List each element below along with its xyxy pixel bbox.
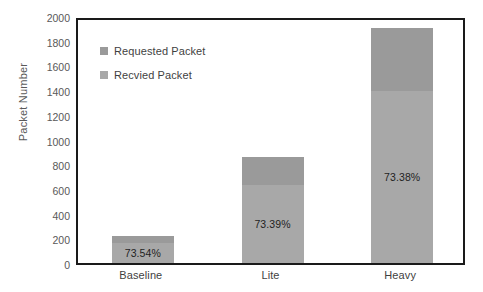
legend-label: Requested Packet [114, 45, 206, 57]
bar-segment-received: 73.39% [242, 185, 304, 263]
bar-segment-received: 73.54% [112, 243, 174, 263]
x-axis-label-baseline: Baseline [119, 269, 162, 281]
y-axis-tick-1000: 1000 [24, 136, 70, 148]
bar-group-lite: 73.39% [242, 157, 304, 263]
y-axis-tick-1200: 1200 [24, 111, 70, 123]
legend-swatch-icon [100, 71, 108, 79]
y-axis-tick-1800: 1800 [24, 37, 70, 49]
bar-group-heavy: 73.38% [371, 28, 433, 263]
x-axis-label-lite: Lite [261, 269, 279, 281]
y-axis-tick-1400: 1400 [24, 86, 70, 98]
y-axis-tick-1600: 1600 [24, 61, 70, 73]
legend-label: Recvied Packet [114, 69, 192, 81]
bar-value-label: 73.39% [254, 218, 290, 230]
plot-inner: Requested PacketRecvied Packet 73.54%73.… [78, 20, 463, 263]
y-axis-tick-600: 600 [24, 185, 70, 197]
y-axis-tick-200: 200 [24, 234, 70, 246]
legend: Requested PacketRecvied Packet [100, 44, 206, 92]
bar-segment-requested [242, 157, 304, 185]
legend-item-1: Requested Packet [100, 44, 206, 57]
bar-segment-requested [371, 28, 433, 90]
bar-value-label: 73.38% [384, 171, 420, 183]
bar-segment-requested [112, 236, 174, 243]
bar-group-baseline: 73.54% [112, 236, 174, 263]
plot-area: Requested PacketRecvied Packet 73.54%73.… [76, 18, 465, 265]
y-axis-tick-0: 0 [24, 259, 70, 271]
bar-value-label: 73.54% [125, 247, 161, 259]
bar-segment-received: 73.38% [371, 91, 433, 263]
packet-number-bar-chart: Packet Number 02004006008001000120014001… [0, 0, 483, 292]
legend-swatch-icon [100, 47, 108, 55]
x-axis-category-labels: BaselineLiteHeavy [76, 269, 465, 289]
y-axis-tick-labels: 0200400600800100012001400160018002000 [24, 18, 70, 265]
y-axis-tick-400: 400 [24, 210, 70, 222]
x-axis-label-heavy: Heavy [384, 269, 416, 281]
y-axis-tick-800: 800 [24, 160, 70, 172]
y-axis-tick-2000: 2000 [24, 12, 70, 24]
legend-item-2: Recvied Packet [100, 68, 206, 81]
